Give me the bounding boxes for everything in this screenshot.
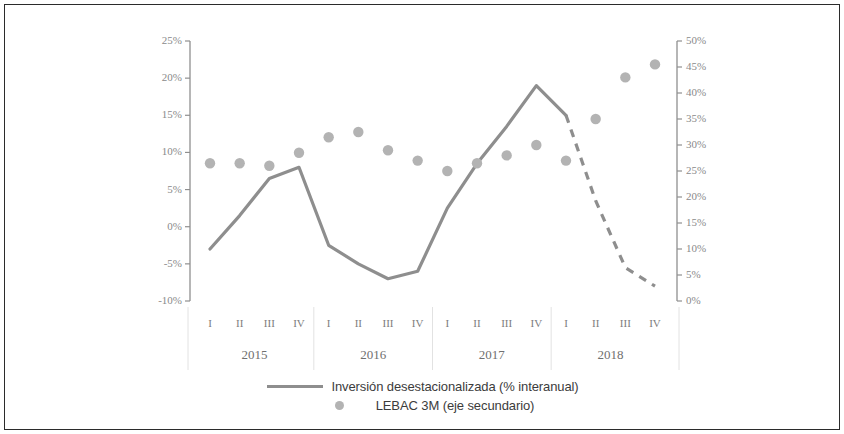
x-axis-quarter-label: I xyxy=(435,317,459,329)
lebac-data-point xyxy=(294,148,304,158)
right-axis-tick-label: 30% xyxy=(686,138,730,150)
lebac-data-point xyxy=(442,166,452,176)
right-axis-tick-label: 40% xyxy=(686,86,730,98)
x-axis-year-label: 2015 xyxy=(220,347,290,363)
left-axis-tick-label: 20% xyxy=(138,71,182,83)
x-axis-quarter-label: I xyxy=(554,317,578,329)
lebac-data-point xyxy=(590,114,600,124)
x-axis-quarter-label: IV xyxy=(643,317,667,329)
lebac-data-point xyxy=(501,150,511,160)
legend-label-inversion: Inversión desestacionalizada (% interanu… xyxy=(331,379,578,394)
x-axis-quarter-label: IV xyxy=(524,317,548,329)
right-axis-tick-label: 10% xyxy=(686,242,730,254)
chart-canvas: 25%20%15%10%5%0%-5%-10% 50%45%40%35%30%2… xyxy=(5,5,841,431)
figure-border: 25%20%15%10%5%0%-5%-10% 50%45%40%35%30%2… xyxy=(4,4,840,430)
x-axis-year-label: 2018 xyxy=(576,347,646,363)
right-axis-tick-label: 20% xyxy=(686,190,730,202)
x-axis-year-label: 2016 xyxy=(338,347,408,363)
x-axis-quarter-label: II xyxy=(465,317,489,329)
legend-entry-line: Inversión desestacionalizada (% interanu… xyxy=(5,377,841,396)
lebac-data-point xyxy=(650,59,660,69)
lebac-data-point xyxy=(412,155,422,165)
x-axis-quarter-label: IV xyxy=(406,317,430,329)
lebac-data-point xyxy=(264,161,274,171)
x-axis-quarter-label: III xyxy=(257,317,281,329)
right-axis-tick-label: 15% xyxy=(686,216,730,228)
left-axis-tick-label: 5% xyxy=(138,183,182,195)
left-axis-tick-label: -10% xyxy=(138,294,182,306)
lebac-data-point xyxy=(383,145,393,155)
left-axis-tick-label: 25% xyxy=(138,34,182,46)
right-axis-tick-label: 25% xyxy=(686,164,730,176)
investment-line-dashed xyxy=(566,115,655,286)
x-axis-quarter-label: II xyxy=(584,317,608,329)
chart-legend: Inversión desestacionalizada (% interanu… xyxy=(5,377,841,415)
investment-line-solid xyxy=(210,86,566,279)
x-axis-quarter-label: I xyxy=(198,317,222,329)
right-axis-tick-label: 50% xyxy=(686,34,730,46)
x-axis-year-label: 2017 xyxy=(457,347,527,363)
dot-swatch-icon xyxy=(335,401,344,410)
x-axis-quarter-label: I xyxy=(317,317,341,329)
left-axis-tick-label: -5% xyxy=(138,257,182,269)
x-axis-quarter-label: III xyxy=(613,317,637,329)
lebac-data-point xyxy=(353,127,363,137)
lebac-data-point xyxy=(323,132,333,142)
x-axis-quarter-label: III xyxy=(495,317,519,329)
legend-entry-dot: LEBAC 3M (eje secundario) xyxy=(5,396,841,415)
x-axis-quarter-label: II xyxy=(346,317,370,329)
right-axis-tick-label: 35% xyxy=(686,112,730,124)
lebac-data-point xyxy=(234,158,244,168)
left-axis-tick-label: 10% xyxy=(138,145,182,157)
x-axis-quarter-label: IV xyxy=(287,317,311,329)
x-axis-quarter-label: II xyxy=(228,317,252,329)
lebac-data-point xyxy=(561,155,571,165)
lebac-data-point xyxy=(531,140,541,150)
right-axis-tick-label: 0% xyxy=(686,294,730,306)
line-swatch-icon xyxy=(267,385,323,388)
left-axis-tick-label: 15% xyxy=(138,108,182,120)
right-axis-tick-label: 5% xyxy=(686,268,730,280)
lebac-data-point xyxy=(620,72,630,82)
right-axis-tick-label: 45% xyxy=(686,60,730,72)
legend-label-lebac: LEBAC 3M (eje secundario) xyxy=(376,398,535,413)
left-axis-tick-label: 0% xyxy=(138,220,182,232)
lebac-data-point xyxy=(472,158,482,168)
x-axis-quarter-label: III xyxy=(376,317,400,329)
lebac-data-point xyxy=(205,158,215,168)
